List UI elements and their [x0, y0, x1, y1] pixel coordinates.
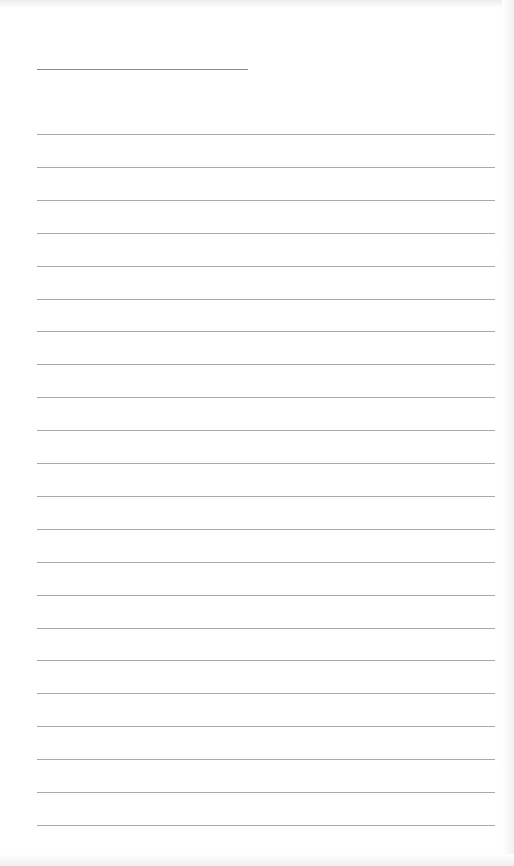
ruled-line: [37, 233, 495, 234]
ruled-line: [37, 693, 495, 694]
ruled-line: [37, 628, 495, 629]
title-line: [37, 69, 248, 70]
ruled-line: [37, 167, 495, 168]
ruled-line: [37, 529, 495, 530]
ruled-line: [37, 364, 495, 365]
ruled-line: [37, 299, 495, 300]
ruled-line: [37, 430, 495, 431]
ruled-line: [37, 562, 495, 563]
ruled-line: [37, 266, 495, 267]
ruled-line: [37, 397, 495, 398]
ruled-line: [37, 759, 495, 760]
ruled-line: [37, 792, 495, 793]
ruled-line: [37, 463, 495, 464]
ruled-line: [37, 726, 495, 727]
scan-edge-bottom: [0, 854, 514, 866]
ruled-line: [37, 595, 495, 596]
ruled-line: [37, 496, 495, 497]
ruled-line: [37, 825, 495, 826]
ruled-line: [37, 134, 495, 135]
ruled-line: [37, 660, 495, 661]
scan-edge-top: [0, 0, 514, 8]
scan-edge-right: [502, 0, 514, 866]
ruled-line: [37, 200, 495, 201]
ruled-line: [37, 331, 495, 332]
